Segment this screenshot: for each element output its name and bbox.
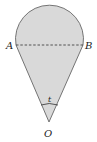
geometry-diagram: A B O t bbox=[0, 0, 97, 142]
label-o: O bbox=[44, 128, 52, 139]
cone-shape bbox=[15, 5, 83, 122]
label-b: B bbox=[84, 40, 92, 51]
label-a: A bbox=[5, 40, 13, 51]
